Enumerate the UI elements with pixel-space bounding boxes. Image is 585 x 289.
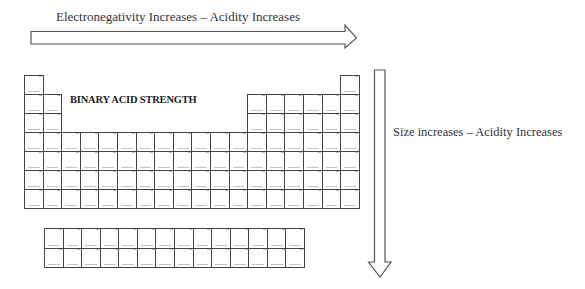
element-name (307, 129, 319, 130)
element-name (326, 186, 338, 187)
element-cell (173, 189, 193, 209)
element-name (102, 186, 114, 187)
element-number (262, 190, 265, 191)
element-number (188, 171, 191, 172)
element-number (355, 152, 358, 153)
f-block-cell (100, 248, 120, 269)
element-number (39, 133, 42, 134)
element-cell (80, 170, 100, 190)
f-block-cell (174, 228, 194, 249)
element-cell (322, 113, 342, 133)
element-number (262, 171, 265, 172)
element-number (96, 249, 99, 250)
element-name (104, 245, 116, 246)
element-number (170, 229, 173, 230)
element-number (57, 133, 60, 134)
element-cell (266, 170, 286, 190)
element-cell (154, 132, 174, 152)
f-block-cell (44, 228, 64, 249)
element-number (39, 76, 42, 77)
element-name (47, 129, 59, 130)
element-name (270, 129, 282, 130)
element-cell (284, 94, 304, 114)
element-cell (61, 170, 81, 190)
element-name (121, 148, 133, 149)
element-cell (173, 132, 193, 152)
element-name (177, 186, 189, 187)
element-name (233, 205, 245, 206)
element-cell (247, 132, 267, 152)
element-name (102, 148, 114, 149)
diagram-title: BINARY ACID STRENGTH (70, 94, 197, 105)
element-number (170, 249, 173, 250)
element-cell (322, 132, 342, 152)
element-cell (117, 151, 137, 171)
element-number (76, 133, 79, 134)
f-block-cell (137, 248, 157, 269)
element-name (288, 205, 300, 206)
element-number (281, 133, 284, 134)
element-cell (284, 113, 304, 133)
element-number (57, 190, 60, 191)
element-number (336, 152, 339, 153)
element-number (132, 152, 135, 153)
element-cell (303, 151, 323, 171)
element-number (133, 229, 136, 230)
element-cell (303, 94, 323, 114)
element-number (39, 114, 42, 115)
element-cell (210, 151, 230, 171)
element-number (189, 249, 192, 250)
element-name (47, 148, 59, 149)
element-cell (24, 75, 44, 95)
f-block-cell (81, 248, 101, 269)
element-cell (229, 132, 249, 152)
f-block-cell (248, 248, 268, 269)
element-name (251, 186, 263, 187)
element-number (226, 249, 229, 250)
element-cell (266, 151, 286, 171)
element-number (262, 152, 265, 153)
element-name (122, 245, 134, 246)
element-cell (191, 132, 211, 152)
element-number (336, 114, 339, 115)
element-name (251, 205, 263, 206)
element-number (206, 152, 209, 153)
element-number (207, 229, 210, 230)
element-name (288, 167, 300, 168)
element-number (206, 133, 209, 134)
element-number (355, 171, 358, 172)
element-cell (98, 170, 118, 190)
element-name (326, 129, 338, 130)
element-cell (136, 189, 156, 209)
element-name (28, 148, 40, 149)
element-cell (303, 113, 323, 133)
element-name (215, 245, 227, 246)
element-number (299, 133, 302, 134)
element-number (299, 152, 302, 153)
element-number (152, 249, 155, 250)
element-name (344, 167, 356, 168)
f-block-cell (267, 248, 287, 269)
element-name (214, 205, 226, 206)
f-block-cell (230, 228, 250, 249)
element-name (65, 167, 77, 168)
element-cell (266, 189, 286, 209)
element-cell (24, 170, 44, 190)
element-cell (80, 151, 100, 171)
element-number (262, 114, 265, 115)
element-name (158, 167, 170, 168)
element-name (344, 91, 356, 92)
element-number (188, 133, 191, 134)
element-number (169, 190, 172, 191)
element-cell (191, 170, 211, 190)
element-number (318, 95, 321, 96)
element-number (243, 190, 246, 191)
element-name (270, 148, 282, 149)
f-block-cell (248, 228, 268, 249)
element-name (195, 148, 207, 149)
element-number (355, 76, 358, 77)
element-number (263, 249, 266, 250)
element-name (28, 129, 40, 130)
element-name (271, 264, 283, 265)
element-name (344, 110, 356, 111)
